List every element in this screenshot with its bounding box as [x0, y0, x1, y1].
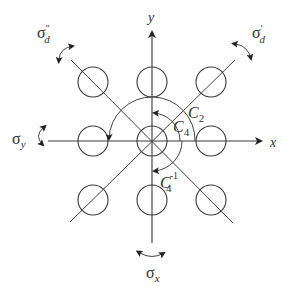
sigma-y-label: σy [12, 130, 26, 150]
sigma-x-label: σx [146, 264, 160, 284]
x-axis-label: x [269, 135, 277, 150]
c4-inverse-rotation-arc [154, 141, 182, 171]
atom-top-right [196, 67, 226, 97]
sigma-d-double-prime-reflection-arrow [59, 46, 73, 59]
sigma-d-prime-label: σ'd [252, 23, 265, 45]
y-axis-label: y [146, 10, 155, 25]
sigma-d-prime-reflection-arrow [236, 44, 251, 59]
atom-bottom-right [196, 185, 226, 215]
symmetry-diagram: y x C2 C4 C-14 σy σx σ''d σ'd [0, 0, 289, 295]
c4-inverse-label: C-14 [160, 170, 178, 194]
sigma-d-double-prime-label: σ''d [37, 23, 50, 45]
sigma-x-reflection-arrow [140, 253, 164, 257]
sigma-y-reflection-arrow [39, 128, 44, 145]
c4-label: C4 [173, 118, 190, 138]
